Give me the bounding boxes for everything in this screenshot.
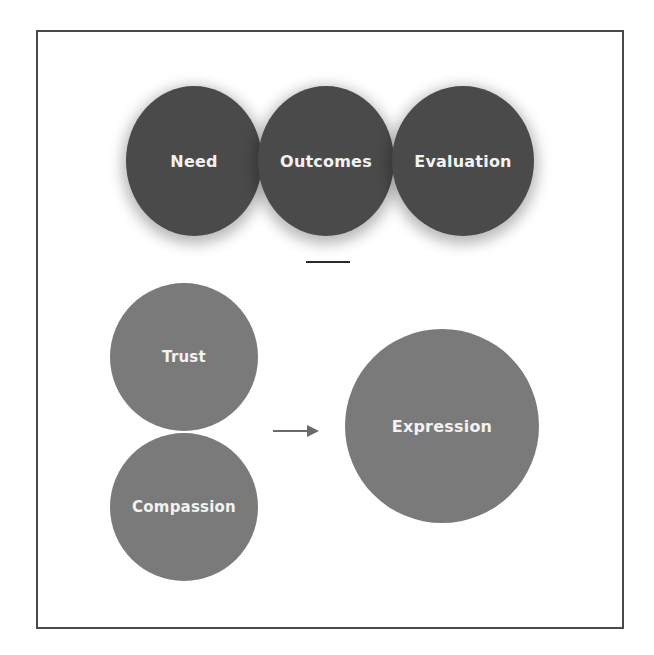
arrow-right-icon — [273, 425, 319, 437]
expression-circle: Expression — [345, 329, 539, 523]
evaluation-label: Evaluation — [414, 152, 511, 171]
outcomes-circle: Outcomes — [258, 86, 394, 236]
expression-label: Expression — [392, 417, 492, 436]
trust-circle: Trust — [110, 283, 258, 431]
compassion-circle: Compassion — [110, 433, 258, 581]
evaluation-circle: Evaluation — [392, 86, 534, 236]
trust-label: Trust — [162, 348, 206, 366]
need-label: Need — [170, 152, 217, 171]
outcomes-label: Outcomes — [280, 152, 372, 171]
section-divider — [306, 261, 350, 263]
need-circle: Need — [126, 86, 262, 236]
compassion-label: Compassion — [132, 498, 236, 516]
